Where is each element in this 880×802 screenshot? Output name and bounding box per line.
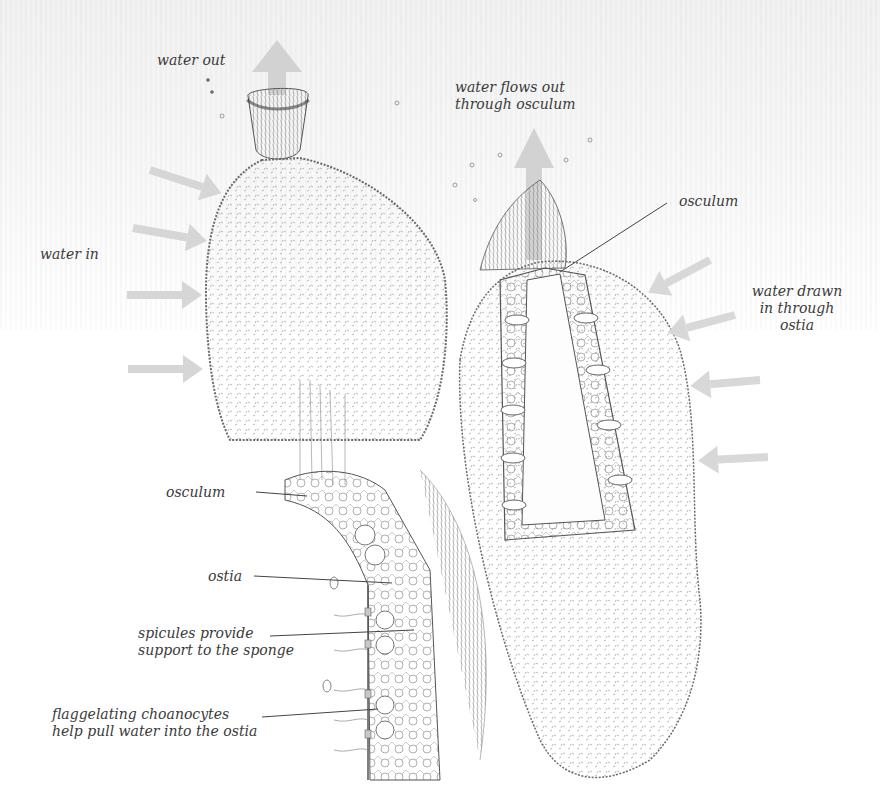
label-water-flows-out-line1: water flows out bbox=[455, 79, 575, 96]
label-spicules-line2: support to the sponge bbox=[138, 642, 294, 659]
label-choanocytes-line2: help pull water into the ostia bbox=[52, 723, 257, 740]
whole-sponge bbox=[206, 88, 447, 440]
label-choanocytes-line1: flaggelating choanocytes bbox=[52, 706, 257, 723]
label-water-drawn-line2: in through bbox=[737, 300, 857, 317]
label-spicules: spicules provide support to the sponge bbox=[138, 625, 294, 659]
label-water-drawn-line1: water drawn bbox=[737, 283, 857, 300]
label-water-in: water in bbox=[40, 246, 99, 263]
sponge-cross-section bbox=[460, 180, 701, 777]
sponge-illustration bbox=[0, 0, 880, 802]
label-water-out: water out bbox=[157, 52, 225, 69]
label-osculum-cross-section: osculum bbox=[679, 193, 738, 210]
label-water-flows-out-line2: through osculum bbox=[455, 96, 575, 113]
water-out-arrow bbox=[252, 40, 302, 95]
label-water-drawn-line3: ostia bbox=[737, 317, 857, 334]
label-osculum-detail: osculum bbox=[166, 484, 225, 501]
label-water-flows-out: water flows out through osculum bbox=[455, 79, 575, 113]
label-spicules-line1: spicules provide bbox=[138, 625, 294, 642]
label-choanocytes: flaggelating choanocytes help pull water… bbox=[52, 706, 257, 740]
label-water-drawn-in: water drawn in through ostia bbox=[737, 283, 857, 334]
label-ostia-detail: ostia bbox=[208, 568, 242, 585]
